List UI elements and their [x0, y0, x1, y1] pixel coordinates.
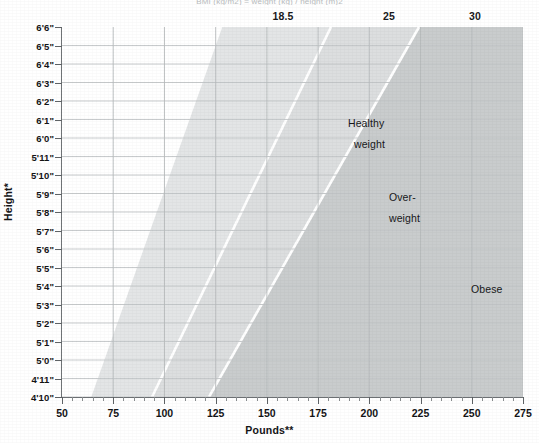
y-axis-label-8: 5'10": [16, 170, 54, 181]
x-axis-tick-minor-60: [82, 397, 83, 401]
chart-title: BMI (kg/m2) = weight (kg) / height (m)2: [0, 0, 539, 5]
y-axis-label-6: 6'0": [16, 133, 54, 144]
x-axis-tick-minor-65: [93, 397, 94, 401]
x-axis-label-8: 250: [463, 407, 481, 419]
bmi-tick-label-2: 30: [469, 10, 481, 22]
x-axis-tick-minor-110: [185, 397, 186, 401]
y-axis-tick-17: [55, 342, 62, 343]
x-axis-tick-minor-205: [380, 397, 381, 401]
y-axis-tick-12: [55, 249, 62, 250]
x-axis-tick-major-150: [267, 397, 268, 404]
y-axis-label-12: 5'6": [16, 244, 54, 255]
x-axis-label-2: 100: [156, 407, 174, 419]
x-axis-label-1: 75: [107, 407, 119, 419]
x-axis-tick-minor-95: [154, 397, 155, 401]
y-axis-label-20: 4'10": [16, 392, 54, 403]
y-axis-tick-14: [55, 286, 62, 287]
y-axis-tick-16: [55, 323, 62, 324]
bmi-tick-label-1: 25: [383, 10, 395, 22]
x-axis-label-3: 125: [207, 407, 225, 419]
y-axis-label-2: 6'4": [16, 59, 54, 70]
x-axis-tick-minor-115: [195, 397, 196, 401]
y-axis-tick-8: [55, 175, 62, 176]
x-axis-tick-minor-140: [246, 397, 247, 401]
y-axis-label-4: 6'2": [16, 96, 54, 107]
y-axis-tick-4: [55, 101, 62, 102]
y-axis-label-16: 5'2": [16, 318, 54, 329]
y-axis-label-11: 5'7": [16, 225, 54, 236]
x-axis-tick-major-200: [369, 397, 370, 404]
x-axis-tick-minor-270: [513, 397, 514, 401]
x-axis-tick-minor-265: [503, 397, 504, 401]
x-axis-title: Pounds**: [0, 424, 539, 436]
y-axis-label-15: 5'3": [16, 299, 54, 310]
y-axis-label-3: 6'3": [16, 77, 54, 88]
x-axis-tick-major-125: [216, 397, 217, 404]
x-axis-tick-major-50: [62, 397, 63, 404]
x-axis-tick-major-225: [421, 397, 422, 404]
y-axis-title: Height*: [2, 172, 14, 232]
x-axis-tick-minor-145: [257, 397, 258, 401]
y-axis-label-13: 5'5": [16, 262, 54, 273]
y-axis-label-1: 6'5": [16, 40, 54, 51]
x-axis-tick-minor-220: [410, 397, 411, 401]
x-axis-tick-minor-105: [175, 397, 176, 401]
y-axis-label-9: 5'9": [16, 188, 54, 199]
x-axis-tick-minor-80: [123, 397, 124, 401]
x-axis-tick-minor-90: [144, 397, 145, 401]
x-axis-tick-minor-85: [134, 397, 135, 401]
x-axis-label-4: 150: [258, 407, 276, 419]
x-axis-tick-minor-165: [298, 397, 299, 401]
y-axis-tick-15: [55, 305, 62, 306]
y-axis-label-10: 5'8": [16, 207, 54, 218]
region-label-healthy-weight: Healthy weight: [348, 113, 385, 155]
x-axis-tick-minor-120: [205, 397, 206, 401]
x-axis-tick-minor-230: [431, 397, 432, 401]
x-axis-tick-minor-260: [492, 397, 493, 401]
y-axis-label-0: 6'6": [16, 22, 54, 33]
bmi-chart: BMI (kg/m2) = weight (kg) / height (m)2 …: [0, 0, 539, 443]
x-axis-label-6: 200: [361, 407, 379, 419]
plot-area: Healthy weight Over- weight Obese: [62, 27, 523, 397]
x-axis-tick-minor-210: [390, 397, 391, 401]
x-axis-tick-minor-155: [277, 397, 278, 401]
y-axis-label-5: 6'1": [16, 114, 54, 125]
y-axis-tick-0: [55, 27, 62, 28]
y-axis-tick-13: [55, 268, 62, 269]
y-axis-label-17: 5'1": [16, 336, 54, 347]
x-axis-tick-minor-160: [287, 397, 288, 401]
x-axis-tick-minor-240: [451, 397, 452, 401]
x-axis-tick-minor-190: [349, 397, 350, 401]
x-axis-tick-major-175: [318, 397, 319, 404]
x-axis-tick-major-100: [164, 397, 165, 404]
x-axis-label-7: 225: [412, 407, 430, 419]
x-axis-tick-minor-245: [462, 397, 463, 401]
x-axis-tick-minor-55: [72, 397, 73, 401]
x-axis-tick-minor-180: [328, 397, 329, 401]
y-axis-label-19: 4'11": [16, 373, 54, 384]
y-axis-labels: 6'6"6'5"6'4"6'3"6'2"6'1"6'0"5'11"5'10"5'…: [8, 0, 54, 443]
y-axis-tick-20: [55, 397, 62, 398]
x-axis-line: [61, 397, 524, 398]
y-axis-tick-5: [55, 120, 62, 121]
x-axis-tick-minor-195: [359, 397, 360, 401]
y-axis-label-18: 5'0": [16, 355, 54, 366]
x-axis-tick-minor-170: [308, 397, 309, 401]
x-axis-tick-major-275: [523, 397, 524, 404]
y-axis-tick-11: [55, 231, 62, 232]
y-axis-tick-19: [55, 379, 62, 380]
x-axis-label-0: 50: [56, 407, 68, 419]
x-axis-tick-major-75: [113, 397, 114, 404]
x-axis-tick-minor-185: [339, 397, 340, 401]
x-axis-label-9: 275: [514, 407, 532, 419]
y-axis-tick-6: [55, 138, 62, 139]
bmi-bands-svg: [62, 27, 523, 397]
x-axis-tick-minor-255: [482, 397, 483, 401]
y-axis-label-7: 5'11": [16, 151, 54, 162]
region-label-overweight: Over- weight: [389, 187, 420, 229]
y-axis-tick-2: [55, 64, 62, 65]
x-axis-tick-minor-130: [226, 397, 227, 401]
y-axis-label-14: 5'4": [16, 281, 54, 292]
x-axis-tick-minor-215: [400, 397, 401, 401]
x-axis-label-5: 175: [309, 407, 327, 419]
